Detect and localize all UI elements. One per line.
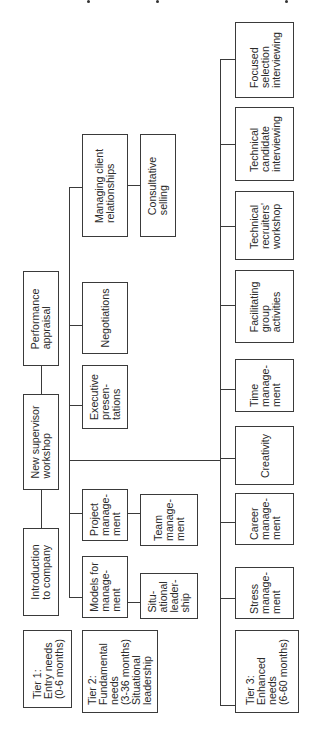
course-label: Project manage- ment [89, 494, 122, 536]
course-introduction-to-company: Introduction to company [23, 528, 59, 616]
cut-off-caption [0, 0, 316, 8]
course-consultative-selling: Consultative selling [140, 134, 176, 237]
course-technical-recruiters-workshop: Technical recruiters' workshop [235, 191, 294, 260]
course-label: Technical recruiters' workshop [248, 202, 281, 248]
course-label: Facilitating group activities [248, 281, 281, 332]
connector [69, 597, 82, 598]
course-label: Career manage- ment [248, 498, 281, 540]
course-models-for-management: Models for manage- ment [82, 556, 128, 618]
tier3-trunk-line [220, 59, 221, 706]
course-label: Consultative selling [147, 156, 169, 214]
course-career-management: Career manage- ment [235, 493, 294, 545]
course-label: Situ- ational leader- ship [147, 580, 191, 613]
connector [220, 226, 235, 227]
tier2-trunk-line [69, 187, 70, 598]
connector [41, 366, 42, 394]
course-managing-client-relationships: Managing client relationships [82, 134, 128, 237]
course-time-management: Time manage- ment [235, 359, 294, 412]
course-label: Technical candidate interviewing [248, 116, 281, 172]
course-label: Time manage- ment [248, 365, 281, 407]
course-label: Creativity [259, 433, 270, 477]
connector [220, 389, 235, 390]
course-label: Introduction to company [30, 544, 52, 599]
tier2-label-box: Tier 2: Fundamental needs (3-36 months) … [82, 630, 158, 713]
course-facilitating-group-activities: Facilitating group activities [235, 270, 294, 343]
tier3-label: Tier 3: Enhanced needs (6-60 months) [245, 639, 289, 705]
course-label: Managing client relationships [94, 148, 116, 222]
course-label: Focused selection interviewing [248, 32, 281, 88]
tier2-label: Tier 2: Fundamental needs (3-36 months) … [87, 639, 153, 705]
connector [220, 705, 235, 706]
connector [69, 513, 82, 514]
connector [41, 490, 42, 528]
course-project-management: Project manage- ment [82, 489, 128, 541]
course-label: Models for manage- ment [89, 562, 122, 611]
tier1-label: Tier 1: Entry needs (0-6 months) [31, 639, 64, 699]
connector [69, 325, 82, 326]
connector [220, 305, 235, 306]
tier1-label-box: Tier 1: Entry needs (0-6 months) [23, 630, 72, 708]
course-label: Stress manage- ment [248, 572, 281, 614]
tier3-label-box: Tier 3: Enhanced needs (6-60 months) [235, 630, 299, 713]
course-label: Negotiations [100, 289, 111, 348]
connector [128, 513, 140, 514]
tier-link-line [69, 460, 221, 461]
course-executive-presentations: Executive presen- tations [82, 365, 128, 429]
connector [69, 187, 82, 188]
course-label: Executive presen- tations [89, 374, 122, 420]
course-new-supervisor-workshop: New supervisor workshop [23, 394, 59, 490]
connector [220, 59, 235, 60]
caption-fragment [87, 0, 90, 3]
course-creativity: Creativity [235, 426, 294, 485]
course-label: Performance appraisal [30, 288, 52, 349]
connector [220, 522, 235, 523]
course-label: Team manage- ment [153, 499, 186, 541]
connector [220, 598, 235, 599]
caption-fragment [285, 0, 288, 3]
course-focused-selection-interviewing: Focused selection interviewing [235, 22, 294, 98]
course-label: New supervisor workshop [30, 405, 52, 478]
connector [128, 602, 140, 603]
connector [220, 458, 235, 459]
course-team-management: Team manage- ment [140, 494, 198, 546]
connector [69, 405, 82, 406]
course-performance-appraisal: Performance appraisal [23, 271, 59, 366]
course-technical-candidate-interviewing: Technical candidate interviewing [235, 107, 294, 181]
course-stress-management: Stress manage- ment [235, 567, 294, 619]
connector [220, 144, 235, 145]
course-negotiations: Negotiations [82, 282, 128, 354]
connector [128, 185, 140, 186]
course-situational-leadership: Situ- ational leader- ship [140, 573, 198, 619]
caption-fragment [156, 0, 159, 3]
